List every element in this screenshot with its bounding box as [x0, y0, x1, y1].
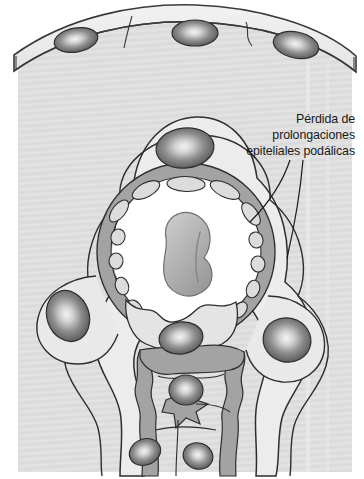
parietal-epithelial-nucleus-center [172, 20, 218, 46]
mesangial-nucleus-middle [169, 375, 203, 405]
annotation-line-3: epiteliales podálicas [246, 144, 355, 158]
annotation-line-1: Pérdida de [296, 112, 355, 126]
erythrocyte [164, 212, 212, 296]
annotation-line-2: prolongaciones [272, 128, 355, 142]
figure-canvas: Pérdida de prolongaciones epiteliales po… [0, 0, 364, 479]
glomerular-capillary-figure: Pérdida de prolongaciones epiteliales po… [0, 0, 364, 479]
